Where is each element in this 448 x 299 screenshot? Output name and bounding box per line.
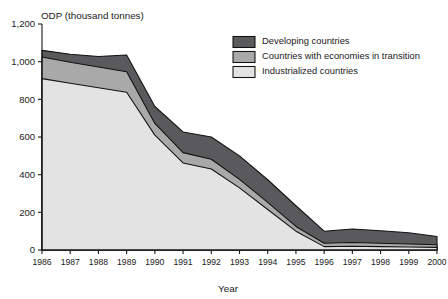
legend-swatch: [233, 52, 255, 63]
x-tick-label: 1988: [89, 257, 108, 267]
x-tick-label: 1999: [399, 257, 418, 267]
area-series-group: [42, 50, 437, 250]
legend-swatch: [233, 67, 255, 78]
x-tick-label: 2000: [427, 257, 446, 267]
chart-legend: Developing countriesCountries with econo…: [233, 35, 420, 77]
x-tick-label: 1997: [343, 257, 362, 267]
x-tick-label: 1987: [61, 257, 80, 267]
y-axis-title: ODP (thousand tonnes): [41, 10, 144, 21]
x-tick-label: 1993: [230, 257, 249, 267]
y-tick-label: 600: [19, 131, 35, 142]
y-tick-label: 400: [19, 169, 35, 180]
legend-label: Developing countries: [262, 35, 350, 46]
legend-label: Industrialized countries: [262, 65, 358, 76]
chart-svg: 02004006008001,0001,20019861987198819891…: [0, 0, 448, 299]
y-tick-label: 200: [19, 207, 35, 218]
x-tick-label: 1990: [145, 257, 164, 267]
x-tick-label: 1992: [202, 257, 221, 267]
legend-label: Countries with economies in transition: [262, 50, 420, 61]
x-tick-label: 1994: [258, 257, 277, 267]
x-axis-title: Year: [218, 283, 239, 294]
x-tick-label: 1995: [286, 257, 305, 267]
stacked-area-chart: 02004006008001,0001,20019861987198819891…: [0, 0, 448, 299]
x-tick-label: 1996: [315, 257, 334, 267]
x-tick-label: 1998: [371, 257, 390, 267]
x-tick-label: 1991: [174, 257, 193, 267]
y-tick-label: 800: [19, 94, 35, 105]
x-tick-label: 1986: [32, 257, 51, 267]
y-tick-label: 1,000: [11, 56, 35, 67]
y-tick-label: 1,200: [11, 18, 35, 29]
x-tick-label: 1989: [117, 257, 136, 267]
legend-swatch: [233, 37, 255, 48]
y-tick-label: 0: [30, 244, 35, 255]
